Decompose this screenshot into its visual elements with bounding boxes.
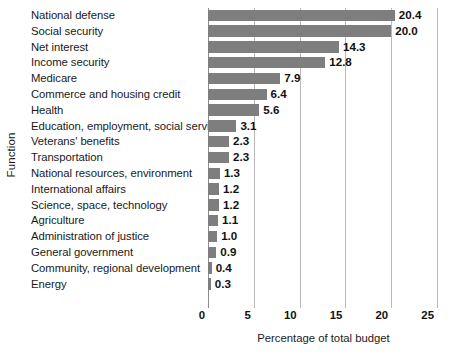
- bar-row: 1.2: [208, 182, 439, 198]
- bar-value-label: 6.4: [271, 87, 287, 103]
- category-label: National defense: [31, 8, 115, 24]
- bar-value-label: 1.2: [223, 198, 239, 214]
- bar-row: 20.4: [208, 8, 439, 24]
- category-label: Science, space, technology: [31, 198, 167, 214]
- bar: [208, 104, 259, 115]
- bar: [208, 10, 395, 21]
- bar-value-label: 14.3: [343, 40, 366, 56]
- bar-row: 1.3: [208, 166, 439, 182]
- bar-row: 6.4: [208, 87, 439, 103]
- bar: [208, 73, 280, 84]
- bar: [208, 152, 229, 163]
- bar-row: 2.3: [208, 134, 439, 150]
- bar: [208, 183, 219, 194]
- bar-row: 3.1: [208, 119, 439, 135]
- x-tick-label: 15: [330, 309, 346, 321]
- bar: [208, 89, 267, 100]
- category-label: Veterans' benefits: [31, 134, 120, 150]
- bar-value-label: 3.1: [240, 119, 256, 135]
- bar-row: 20.0: [208, 24, 439, 40]
- x-tick-label: 5: [244, 309, 253, 321]
- bar-value-label: 0.4: [216, 261, 232, 277]
- bar-row: 14.3: [208, 40, 439, 56]
- category-label: Community, regional development: [31, 261, 200, 277]
- bar: [208, 215, 218, 226]
- x-tick-label: 25: [421, 309, 437, 321]
- category-label: Income security: [31, 55, 109, 71]
- plot-area: 20.420.014.312.87.96.45.63.12.32.31.31.2…: [208, 8, 439, 308]
- bar: [208, 136, 229, 147]
- bar-chart: Function National defenseSocial security…: [0, 0, 453, 354]
- bar-value-label: 2.3: [233, 134, 249, 150]
- bar-value-label: 1.2: [223, 182, 239, 198]
- category-label: Social security: [31, 24, 103, 40]
- bar-row: 1.1: [208, 213, 439, 229]
- bar-row: 12.8: [208, 55, 439, 71]
- category-label: General government: [31, 245, 133, 261]
- bar: [208, 168, 220, 179]
- bar: [208, 231, 217, 242]
- bar-value-label: 12.8: [329, 55, 352, 71]
- x-tick-label: 20: [376, 309, 392, 321]
- category-label: Medicare: [31, 71, 77, 87]
- category-label: International affairs: [31, 182, 126, 198]
- bar: [208, 25, 391, 36]
- bar-value-label: 2.3: [233, 150, 249, 166]
- bar-value-label: 1.3: [224, 166, 240, 182]
- bar-row: 0.3: [208, 277, 439, 293]
- bar-row: 1.2: [208, 198, 439, 214]
- bar-value-label: 1.0: [221, 229, 237, 245]
- x-axis-title: Percentage of total budget: [208, 332, 439, 344]
- bar-row: 0.4: [208, 261, 439, 277]
- category-label: Commerce and housing credit: [31, 87, 180, 103]
- bar: [208, 247, 216, 258]
- bar-row: 7.9: [208, 71, 439, 87]
- bar-value-label: 20.0: [395, 24, 418, 40]
- bar-value-label: 0.3: [215, 277, 231, 293]
- category-label: Health: [31, 103, 63, 119]
- bar-value-label: 7.9: [284, 71, 300, 87]
- category-label: Education, employment, social services: [31, 119, 227, 135]
- category-label: Net interest: [31, 40, 88, 56]
- bar-row: 2.3: [208, 150, 439, 166]
- bar: [208, 120, 236, 131]
- x-axis-tick-labels: 0510152025: [208, 309, 439, 325]
- category-label: Energy: [31, 277, 67, 293]
- category-label: National resources, environment: [31, 166, 192, 182]
- bar: [208, 262, 212, 273]
- bar: [208, 199, 219, 210]
- bar-value-label: 0.9: [220, 245, 236, 261]
- bar-row: 0.9: [208, 245, 439, 261]
- category-label-list: National defenseSocial securityNet inter…: [31, 8, 206, 308]
- bar: [208, 41, 339, 52]
- bar-value-label: 20.4: [399, 8, 422, 24]
- x-tick-label: 0: [199, 309, 208, 321]
- category-label: Administration of justice: [31, 229, 149, 245]
- category-label: Agriculture: [31, 213, 84, 229]
- category-label: Transportation: [31, 150, 103, 166]
- y-axis-title: Function: [0, 0, 22, 310]
- x-tick-label: 10: [284, 309, 300, 321]
- bar: [208, 57, 325, 68]
- bar-row: 5.6: [208, 103, 439, 119]
- bar-row: 1.0: [208, 229, 439, 245]
- bar-value-label: 1.1: [222, 213, 238, 229]
- bar: [208, 278, 211, 289]
- y-axis-title-text: Function: [5, 133, 17, 178]
- bar-value-label: 5.6: [263, 103, 279, 119]
